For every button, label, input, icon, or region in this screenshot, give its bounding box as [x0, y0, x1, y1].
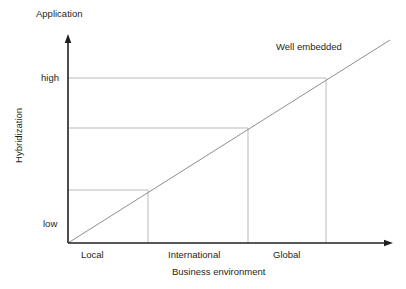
- chart-canvas: [0, 0, 406, 289]
- hybridization-business-environment-chart: Application Well embedded high low Local…: [0, 0, 406, 289]
- trend-line: [68, 40, 390, 243]
- x-category-label-local: Local: [81, 250, 104, 260]
- y-tick-label-low: low: [43, 219, 57, 229]
- x-category-label-international: International: [168, 250, 220, 260]
- x-axis-title: Business environment: [172, 267, 265, 277]
- application-axis-title: Application: [36, 9, 82, 19]
- x-axis-arrow-icon: [384, 240, 393, 247]
- x-category-label-global: Global: [273, 250, 300, 260]
- y-tick-label-high: high: [41, 73, 59, 83]
- y-axis-title: Hybridization: [14, 108, 24, 163]
- y-axis-arrow-icon: [65, 34, 72, 43]
- well-embedded-annotation: Well embedded: [276, 42, 342, 52]
